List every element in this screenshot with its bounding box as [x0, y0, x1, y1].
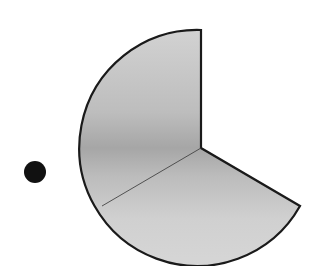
- circle-sector: [79, 30, 300, 266]
- point-dot: [24, 161, 46, 183]
- sector-diagram: [0, 0, 322, 266]
